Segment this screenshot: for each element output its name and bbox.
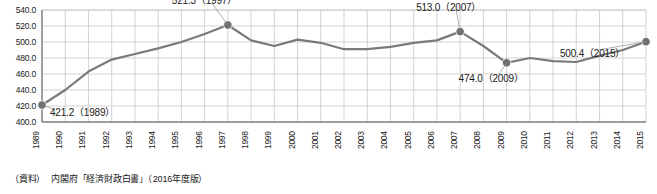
data-annotation-label: 513.0（2007） — [416, 0, 481, 14]
x-axis-tick-label: 2011 — [542, 125, 564, 155]
x-axis-tick-label: 2005 — [403, 125, 425, 155]
chart-plot-area: 540.0520.0500.0480.0460.0440.0420.0400.0… — [0, 0, 657, 160]
data-annotation-label: 500.4（2015） — [560, 45, 625, 60]
source-text: 内閣府「経済財政白書」（2016年度版） — [51, 174, 207, 184]
x-axis-tick-label: 2013 — [589, 125, 611, 155]
x-axis-tick-label: 1998 — [240, 125, 262, 155]
x-axis-tick-label: 1991 — [77, 125, 99, 155]
x-axis-tick-label: 2014 — [612, 125, 634, 155]
x-axis-tick-label: 2000 — [287, 125, 309, 155]
y-axis-tick-label: 480.0 — [2, 53, 36, 63]
source-label: （資料） — [10, 174, 45, 184]
y-axis-tick-label: 420.0 — [2, 101, 36, 111]
y-axis-tick-label: 440.0 — [2, 85, 36, 95]
x-axis-tick-label: 1999 — [263, 125, 285, 155]
x-axis-tick-label: 2007 — [449, 125, 471, 155]
x-axis-tick-label: 2009 — [496, 125, 518, 155]
x-axis-tick-label: 1994 — [147, 125, 169, 155]
chart-figure: 540.0520.0500.0480.0460.0440.0420.0400.0… — [0, 0, 657, 194]
x-axis-tick-label: 1995 — [170, 125, 192, 155]
data-annotation-label: 421.2（1989） — [50, 104, 115, 119]
data-annotation-label: 521.3（1997） — [172, 0, 237, 7]
x-axis-tick-label: 1993 — [124, 125, 146, 155]
x-axis-tick-label: 2003 — [356, 125, 378, 155]
x-axis-tick-label: 2006 — [426, 125, 448, 155]
x-axis-tick-label: 1996 — [194, 125, 216, 155]
x-axis-tick-label: 2010 — [519, 125, 541, 155]
x-axis-tick-label: 2012 — [565, 125, 587, 155]
y-axis-tick-label: 500.0 — [2, 37, 36, 47]
x-axis-tick-label: 2015 — [635, 125, 657, 155]
y-axis-tick-label: 460.0 — [2, 69, 36, 79]
x-axis-tick-label: 2002 — [333, 125, 355, 155]
data-annotation-label: 474.0（2009） — [459, 70, 524, 85]
x-axis-tick-label: 1989 — [31, 125, 53, 155]
x-axis-tick-label: 1990 — [54, 125, 76, 155]
x-axis-tick-label: 1992 — [101, 125, 123, 155]
gridlines — [42, 10, 646, 122]
x-axis-tick-label: 2001 — [310, 125, 332, 155]
y-axis-tick-label: 520.0 — [2, 21, 36, 31]
y-axis-tick-label: 540.0 — [2, 5, 36, 15]
x-axis-tick-label: 2004 — [379, 125, 401, 155]
x-axis-tick-label: 2008 — [472, 125, 494, 155]
x-axis-tick-label: 1997 — [217, 125, 239, 155]
source-note: （資料）内閣府「経済財政白書」（2016年度版） — [10, 172, 207, 185]
